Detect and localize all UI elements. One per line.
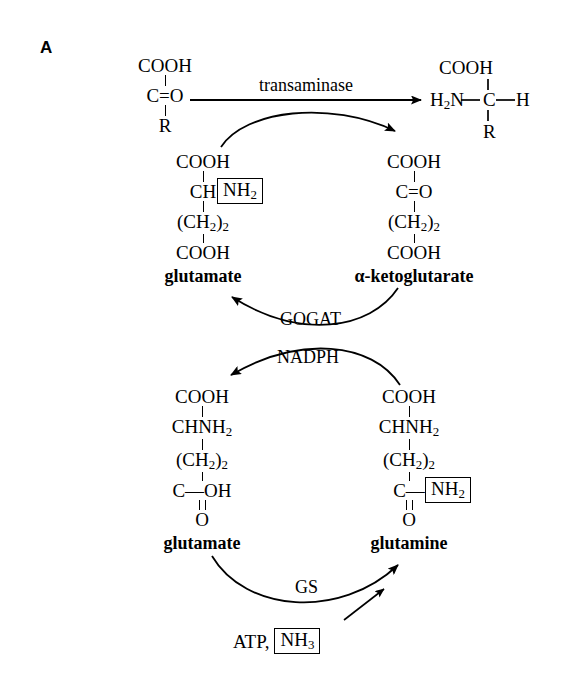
akg-line-cooh1: COOH (334, 152, 494, 171)
transaminase-curved-arrow (221, 113, 395, 147)
akg-line-ch2: (CH2)2 (334, 212, 494, 234)
keto-acid-line-cooh: COOH (105, 56, 225, 75)
glutamate-bottom-line-ch2: (CH2)2 (127, 450, 277, 472)
akg-line-co: C=O (334, 182, 494, 201)
glutamine-line-cooh: COOH (334, 387, 484, 406)
amino-acid-r: R (483, 122, 496, 141)
glutamate-top-ch-text: CH (190, 181, 216, 202)
glutamate-bottom-name: glutamate (127, 534, 277, 552)
amino-acid-h2n: H2N (430, 90, 464, 112)
glutamate-nh2-box: NH2 (217, 178, 263, 204)
arrow-layer (0, 0, 564, 689)
amino-acid-h: H (516, 90, 530, 109)
alpha-ketoglutarate-name: α-ketoglutarate (334, 267, 494, 285)
glutamate-top-name: glutamate (133, 267, 273, 285)
atp-nh3-group: ATP, NH3 (233, 628, 320, 654)
glutamate-top-line-ch: CH NH2 (133, 182, 273, 201)
glutamine-line-c-nh2: C— NH2 (334, 481, 484, 500)
glutamate-top-line-ch2: (CH2)2 (133, 212, 273, 234)
nh3-box: NH3 (274, 628, 320, 654)
panel-label: A (40, 38, 53, 58)
keto-acid-line-co: C=O (105, 86, 225, 105)
glutamate-bottom-line-coh: C—OH (127, 481, 277, 500)
gogat-label: GOGAT (280, 310, 341, 328)
glutamine-name: glutamine (334, 534, 484, 552)
keto-acid-line-r: R (105, 116, 225, 135)
glutamate-top-line-cooh1: COOH (133, 152, 273, 171)
glutamate-top-line-cooh2: COOH (133, 243, 273, 262)
bond-double-vertical (199, 500, 206, 510)
atp-label: ATP, (233, 632, 269, 651)
bond-double-vertical (406, 500, 413, 510)
glutamate-bottom-line-o: O (127, 510, 277, 529)
nadph-label: NADPH (277, 348, 339, 366)
glutamine-line-o: O (334, 510, 484, 529)
glutamine-nh2-box: NH2 (425, 477, 471, 503)
glutamine-carbon-text: C— (393, 480, 425, 501)
nitrogen-assimilation-diagram: A COOH C=O R transaminase COOH H2N C H R… (0, 0, 564, 689)
glutamate-bottom-line-cooh: COOH (127, 387, 277, 406)
transaminase-label: transaminase (259, 76, 353, 94)
amino-acid-carbon: C (483, 90, 496, 109)
glutamate-bottom-line-chnh2: CHNH2 (127, 417, 277, 439)
glutamine-line-chnh2: CHNH2 (334, 417, 484, 439)
atp-nh3-feed-arrow (344, 589, 384, 620)
akg-line-cooh2: COOH (334, 243, 494, 262)
glutamine-line-ch2: (CH2)2 (334, 450, 484, 472)
amino-acid-cooh: COOH (439, 58, 493, 77)
gs-label: GS (295, 578, 318, 596)
